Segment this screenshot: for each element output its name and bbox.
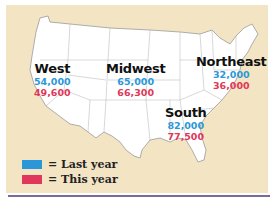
region-name: Midwest bbox=[106, 62, 165, 76]
region-south: South 82,000 77,500 bbox=[165, 106, 207, 142]
us-sales-map: West 54,000 49,600 Midwest 65,000 66,300… bbox=[0, 0, 274, 202]
region-name: South bbox=[165, 106, 207, 120]
last-year-value: 82,000 bbox=[165, 120, 207, 131]
last-year-value: 65,000 bbox=[106, 76, 165, 87]
region-west: West 54,000 49,600 bbox=[34, 62, 71, 98]
last-year-value: 54,000 bbox=[34, 76, 71, 87]
legend-label: = This year bbox=[48, 173, 118, 186]
this-year-value: 49,600 bbox=[34, 87, 71, 98]
red-swatch-icon bbox=[22, 175, 42, 184]
legend-last-year: = Last year bbox=[22, 158, 117, 171]
us-map-outline bbox=[0, 0, 274, 202]
this-year-value: 66,300 bbox=[106, 87, 165, 98]
this-year-value: 36,000 bbox=[196, 80, 267, 91]
legend-label: = Last year bbox=[48, 158, 117, 171]
this-year-value: 77,500 bbox=[165, 131, 207, 142]
region-name: Northeast bbox=[196, 55, 267, 69]
region-name: West bbox=[34, 62, 71, 76]
region-northeast: Northeast 32,000 36,000 bbox=[196, 55, 267, 91]
last-year-value: 32,000 bbox=[196, 69, 267, 80]
blue-swatch-icon bbox=[22, 160, 42, 169]
bottom-divider bbox=[8, 195, 270, 197]
region-midwest: Midwest 65,000 66,300 bbox=[106, 62, 165, 98]
legend-this-year: = This year bbox=[22, 173, 118, 186]
